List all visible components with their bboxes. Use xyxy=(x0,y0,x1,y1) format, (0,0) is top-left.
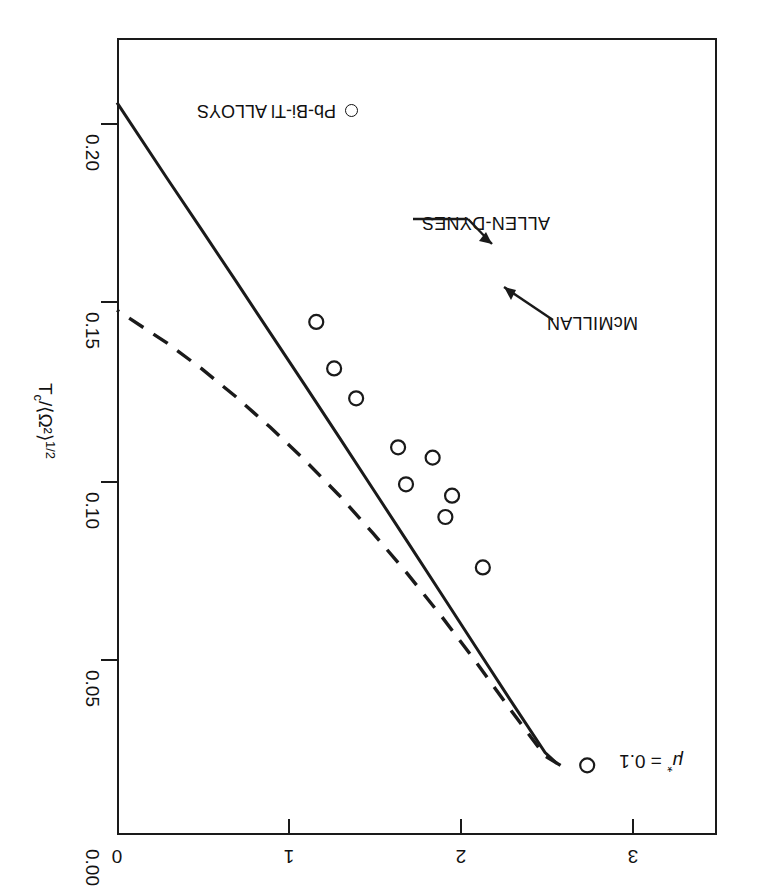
curve-mcmillan-path xyxy=(117,310,561,765)
leader-allen-dynes xyxy=(413,219,492,244)
curve-mcmillan xyxy=(117,310,561,765)
data-point-marker xyxy=(580,758,594,772)
data-point-marker xyxy=(438,510,452,524)
data-point-marker xyxy=(399,477,413,491)
curve-allen-dynes-path xyxy=(117,103,557,764)
data-point-marker xyxy=(426,451,440,465)
data-point-marker xyxy=(309,315,323,329)
curve-allen-dynes xyxy=(117,103,557,764)
data-points-pb-bi-tl-alloys xyxy=(309,315,594,772)
leader-mcmillan xyxy=(504,287,553,320)
data-point-marker xyxy=(476,560,490,574)
data-point-marker xyxy=(349,391,363,405)
data-point-marker xyxy=(327,361,341,375)
arrow-head-icon xyxy=(504,287,516,300)
data-point-marker xyxy=(391,440,405,454)
data-point-marker xyxy=(445,489,459,503)
